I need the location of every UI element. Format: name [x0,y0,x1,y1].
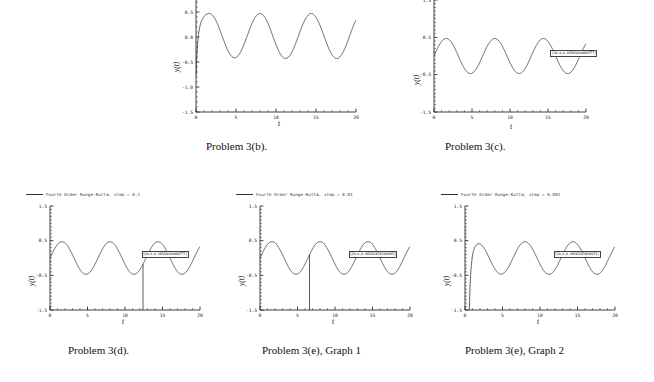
caption-3e1: Problem 3(e), Graph 1 [262,344,361,356]
svg-text:0.0: 0.0 [185,35,194,40]
legend-3d: Fourth Order Runge-Kutta, step = 0.1 [26,191,211,198]
svg-text:0: 0 [259,313,262,318]
svg-text:15: 15 [370,313,376,318]
svg-text:0: 0 [195,115,198,120]
caption-3e2: Problem 3(e), Graph 2 [465,344,564,356]
legend-3e1: Fourth Order Runge-Kutta, step = 0.01 [236,191,421,198]
plot-svg-3d: 051015201.50.5-0.5-1.5 [26,198,211,330]
svg-text:0: 0 [464,313,467,318]
svg-text:20: 20 [583,115,589,120]
svg-text:-1.0: -1.0 [182,85,193,90]
svg-text:5: 5 [471,115,474,120]
chart-panel-3d: Fourth Order Runge-Kutta, step = 0.1 051… [26,191,211,330]
svg-text:0.5: 0.5 [454,238,463,243]
caption-3c: Problem 3(c). [445,140,505,152]
svg-text:-0.5: -0.5 [451,273,462,278]
chart-panel-3c: 051015201.50.5-0.5-1.5 y(t) t [20.0,0.34… [410,0,600,135]
chart-panel-3b: 051015201.00.50.0-0.5-1.0-1.5 y(t) t [170,0,370,132]
svg-text:5: 5 [235,115,238,120]
caption-3d: Problem 3(d). [68,344,129,356]
legend-label-3e1: Fourth Order Runge-Kutta, step = 0.01 [256,192,353,197]
svg-text:-0.5: -0.5 [246,273,257,278]
plot-svg-3e2: 051015201.50.5-0.5-1.5 [441,198,626,330]
svg-text:-0.5: -0.5 [36,273,47,278]
plot-area-3e2: 051015201.50.5-0.5-1.5 y(t) t [20.0,0.34… [441,198,626,330]
svg-text:1.5: 1.5 [423,0,432,3]
svg-text:20: 20 [197,313,203,318]
data-point-annotation-3d: [20.0,0.345820100894777] [142,251,189,258]
y-axis-label-3e2: y(t) [442,276,451,286]
svg-text:0.5: 0.5 [423,35,432,40]
svg-text:-1.5: -1.5 [420,110,431,115]
plot-area-3c: 051015201.50.5-0.5-1.5 y(t) t [20.0,0.34… [410,0,600,135]
y-axis-label-3c: y(t) [412,75,421,85]
legend-3e2: Fourth Order Runge-Kutta, step = 0.001 [441,191,626,198]
x-axis-label-3e1: t [332,317,334,326]
chart-panel-3e1: Fourth Order Runge-Kutta, step = 0.01 05… [236,191,421,330]
svg-text:1.5: 1.5 [454,204,463,209]
svg-text:0.5: 0.5 [39,238,48,243]
svg-text:20: 20 [353,115,359,120]
svg-text:5: 5 [501,313,504,318]
x-axis-label-3c: t [510,122,512,131]
svg-text:0: 0 [433,115,436,120]
svg-text:-1.5: -1.5 [451,308,462,313]
svg-text:15: 15 [160,313,166,318]
x-axis-label-3e2: t [537,317,539,326]
svg-text:-0.5: -0.5 [182,60,193,65]
svg-text:1.5: 1.5 [249,204,258,209]
y-axis-label-3b: y(t) [172,62,181,72]
legend-line-swatch-3e2 [441,194,458,195]
data-point-annotation-3c: [20.0,0.345820100894777] [550,50,597,57]
legend-line-swatch-3d [26,194,43,195]
chart-panel-3e2: Fourth Order Runge-Kutta, step = 0.001 0… [441,191,626,330]
plot-svg-3c: 051015201.50.5-0.5-1.5 [410,0,600,135]
caption-3b: Problem 3(b). [206,140,267,152]
plot-svg-3b: 051015201.00.50.0-0.5-1.0-1.5 [170,0,370,132]
legend-label-3e2: Fourth Order Runge-Kutta, step = 0.001 [461,192,560,197]
svg-text:-0.5: -0.5 [420,72,431,77]
svg-text:10: 10 [507,115,513,120]
svg-text:20: 20 [612,313,618,318]
svg-text:0.5: 0.5 [249,238,258,243]
svg-text:20: 20 [407,313,413,318]
svg-text:5: 5 [86,313,89,318]
svg-text:1.5: 1.5 [39,204,48,209]
x-axis-label-3d: t [122,317,124,326]
plot-area-3e1: 051015201.50.5-0.5-1.5 y(t) t [20.0,0.34… [236,198,421,330]
figure-sheet: 051015201.00.50.0-0.5-1.0-1.5 y(t) t 051… [0,0,654,382]
plot-area-3d: 051015201.50.5-0.5-1.5 y(t) t [20.0,0.34… [26,198,211,330]
plot-area-3b: 051015201.00.50.0-0.5-1.0-1.5 y(t) t [170,0,370,132]
legend-line-swatch-3e1 [236,194,253,195]
svg-text:0.5: 0.5 [185,10,194,15]
y-axis-label-3d: y(t) [27,276,36,286]
data-point-annotation-3e1: [20.0,0.3458218741184195] [349,251,398,258]
svg-text:15: 15 [313,115,319,120]
svg-text:0: 0 [49,313,52,318]
svg-text:-1.5: -1.5 [182,110,193,115]
svg-text:-1.5: -1.5 [36,308,47,313]
legend-label-3d: Fourth Order Runge-Kutta, step = 0.1 [46,192,140,197]
svg-text:-1.5: -1.5 [246,308,257,313]
svg-text:15: 15 [575,313,581,318]
svg-text:15: 15 [545,115,551,120]
data-point-annotation-3e2: [20.0,0.345821874818673] [554,251,601,258]
plot-svg-3e1: 051015201.50.5-0.5-1.5 [236,198,421,330]
x-axis-label-3b: t [278,119,280,128]
svg-text:5: 5 [296,313,299,318]
y-axis-label-3e1: y(t) [237,276,246,286]
